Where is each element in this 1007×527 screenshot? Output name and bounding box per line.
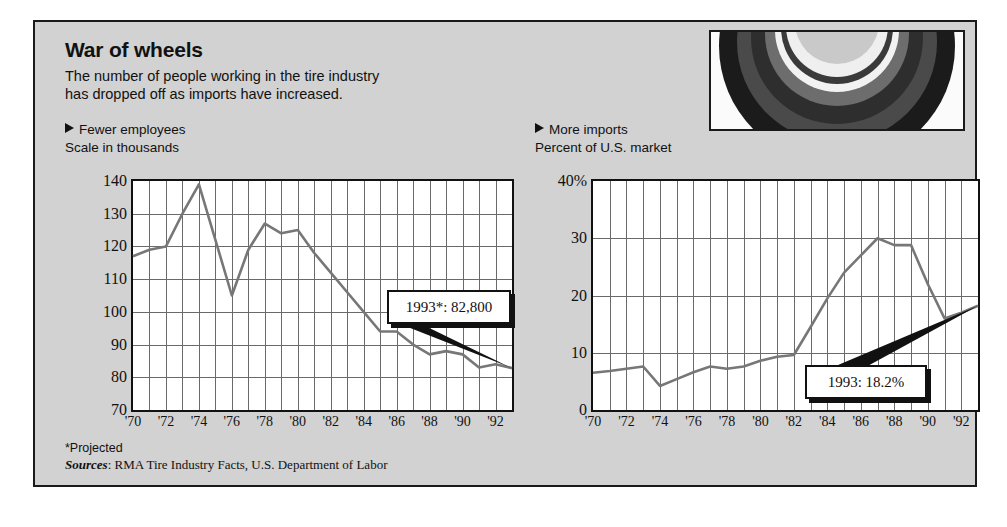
data-line: [593, 238, 978, 386]
y-axis-tick-label: 130: [65, 205, 127, 223]
y-axis-tick-label: 100: [65, 303, 127, 321]
x-axis-tick-label: '92: [479, 414, 513, 430]
triangle-bullet-icon: [65, 123, 74, 133]
x-axis-tick-label: '76: [676, 414, 710, 430]
y-axis-tick-label: 40%: [535, 172, 587, 190]
footnote: *Projected: [65, 441, 123, 455]
deck-text: The number of people working in the tire…: [65, 67, 535, 103]
x-axis-tick-label: '78: [248, 414, 282, 430]
y-axis-tick-label: 120: [65, 237, 127, 255]
x-axis-tick-label: '78: [710, 414, 744, 430]
y-axis-tick-label: 20: [535, 287, 587, 305]
sources-line: Sources: RMA Tire Industry Facts, U.S. D…: [65, 457, 387, 473]
y-axis-tick-label: 90: [65, 336, 127, 354]
deck-line-1: The number of people working in the tire…: [65, 67, 535, 85]
right-chart-title: More imports: [535, 122, 628, 137]
x-axis-tick-label: '80: [743, 414, 777, 430]
x-axis-tick-label: '76: [215, 414, 249, 430]
x-axis-tick-label: '70: [576, 414, 610, 430]
x-axis-tick-label: '92: [944, 414, 978, 430]
imports-callout: 1993: 18.2%: [805, 365, 927, 399]
x-axis-tick-label: '74: [182, 414, 216, 430]
sources-label: Sources: [65, 457, 108, 472]
x-axis-tick-label: '70: [116, 414, 150, 430]
x-axis-tick-label: '80: [281, 414, 315, 430]
x-axis-tick-label: '88: [877, 414, 911, 430]
x-axis-tick-label: '86: [844, 414, 878, 430]
page-title: War of wheels: [65, 38, 203, 62]
y-axis-tick-label: 30: [535, 229, 587, 247]
employees-callout: 1993*: 82,800: [387, 290, 511, 324]
x-axis-tick-label: '84: [810, 414, 844, 430]
sources-text: : RMA Tire Industry Facts, U.S. Departme…: [108, 457, 388, 472]
left-chart-subtitle: Scale in thousands: [65, 140, 179, 155]
y-axis-tick-label: 80: [65, 368, 127, 386]
left-chart-title: Fewer employees: [65, 122, 186, 137]
x-axis-tick-label: '88: [413, 414, 447, 430]
y-axis-tick-label: 140: [65, 172, 127, 190]
x-axis-tick-label: '82: [314, 414, 348, 430]
x-axis-tick-label: '72: [149, 414, 183, 430]
x-axis-tick-label: '90: [911, 414, 945, 430]
y-axis-tick-label: 110: [65, 270, 127, 288]
right-chart-subtitle: Percent of U.S. market: [535, 140, 672, 155]
triangle-bullet-icon: [535, 123, 544, 133]
x-axis-tick-label: '82: [777, 414, 811, 430]
x-axis-tick-label: '74: [643, 414, 677, 430]
x-axis-tick-label: '84: [347, 414, 381, 430]
deck-line-2: has dropped off as imports have increase…: [65, 85, 535, 103]
y-axis-tick-label: 10: [535, 344, 587, 362]
x-axis-tick-label: '72: [609, 414, 643, 430]
x-axis-tick-label: '90: [446, 414, 480, 430]
infographic-panel: War of wheels The number of people worki…: [33, 20, 977, 487]
tire-photo: [709, 30, 965, 131]
x-axis-tick-label: '86: [380, 414, 414, 430]
